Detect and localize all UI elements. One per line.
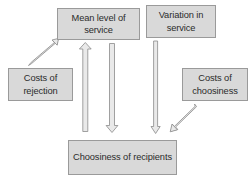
arrow-choosiness-to-mean	[79, 43, 91, 132]
node-costs-of-rejection-label: Costs of rejection	[9, 72, 72, 96]
node-choosiness-of-recipients[interactable]: Choosiness of recipients	[68, 140, 177, 175]
node-choosiness-of-recipients-label: Choosiness of recipients	[70, 151, 175, 163]
node-costs-of-choosiness-label: Costs of choosiness	[183, 72, 247, 96]
arrow-rejection-to-mean	[29, 38, 59, 65]
node-mean-level-of-service-label: Mean level of service	[58, 12, 139, 36]
node-variation-in-service[interactable]: Variation in service	[146, 5, 216, 38]
arrow-mean-to-choosiness	[106, 44, 118, 133]
diagram-canvas: Mean level of service Variation in servi…	[0, 0, 251, 179]
arrow-variation-to-choosiness	[151, 41, 160, 134]
node-costs-of-choosiness[interactable]: Costs of choosiness	[182, 68, 248, 101]
arrow-costschoosiness-to-choosiness	[170, 104, 196, 132]
node-costs-of-rejection[interactable]: Costs of rejection	[8, 68, 73, 101]
node-mean-level-of-service[interactable]: Mean level of service	[57, 8, 140, 40]
node-variation-in-service-label: Variation in service	[147, 9, 215, 33]
